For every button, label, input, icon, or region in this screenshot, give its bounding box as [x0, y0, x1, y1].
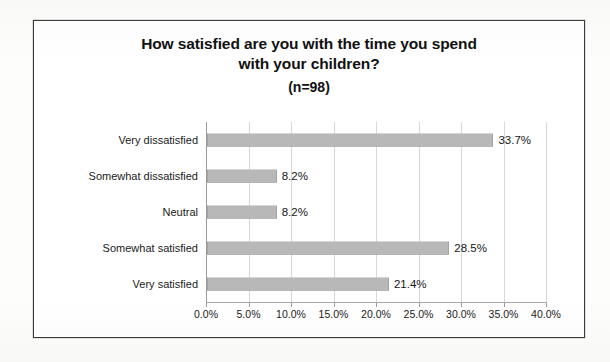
scanned-page: How satisfied are you with the time you … — [0, 0, 610, 362]
x-axis-tick-labels: 0.0%5.0%10.0%15.0%20.0%25.0%30.0%35.0%40… — [206, 308, 547, 326]
chart-title-line-1: How satisfied are you with the time you … — [34, 34, 584, 54]
plot-area: Very dissatisfied33.7%Somewhat dissatisf… — [206, 122, 546, 302]
x-tick-label: 40.0% — [531, 308, 561, 320]
bar — [207, 278, 389, 291]
x-tick-label: 25.0% — [404, 308, 434, 320]
bar-row: Somewhat satisfied28.5% — [206, 230, 546, 266]
category-label: Very satisfied — [133, 278, 198, 290]
chart-subtitle-sample-size: (n=98) — [34, 77, 584, 97]
category-label: Very dissatisfied — [119, 134, 198, 146]
chart-title-block: How satisfied are you with the time you … — [34, 34, 584, 97]
x-tick-label: 10.0% — [276, 308, 306, 320]
bar — [207, 170, 277, 183]
bar-row: Neutral8.2% — [206, 194, 546, 230]
bar — [207, 206, 277, 219]
x-tickmark — [419, 303, 420, 307]
x-tick-label: 0.0% — [194, 308, 218, 320]
x-tick-label: 30.0% — [446, 308, 476, 320]
x-tickmark — [504, 303, 505, 307]
bar-value-label: 28.5% — [454, 242, 487, 254]
category-label: Somewhat satisfied — [103, 242, 198, 254]
category-label: Somewhat dissatisfied — [89, 170, 198, 182]
x-tickmark — [461, 303, 462, 307]
x-tickmark — [249, 303, 250, 307]
x-tick-label: 20.0% — [361, 308, 391, 320]
bar — [207, 242, 449, 255]
x-tickmark — [291, 303, 292, 307]
chart-title-line-2: with your children? — [34, 54, 584, 74]
bar-value-label: 8.2% — [282, 206, 308, 218]
x-tick-label: 5.0% — [237, 308, 261, 320]
category-label: Neutral — [163, 206, 198, 218]
bar-row: Very dissatisfied33.7% — [206, 122, 546, 158]
bar-value-label: 8.2% — [282, 170, 308, 182]
chart-frame: How satisfied are you with the time you … — [33, 20, 585, 338]
bar-value-label: 33.7% — [498, 134, 531, 146]
x-tickmark — [376, 303, 377, 307]
x-tick-label: 15.0% — [319, 308, 349, 320]
x-tickmark — [546, 303, 547, 307]
bar — [207, 134, 493, 147]
bar-row: Very satisfied21.4% — [206, 266, 546, 302]
bar-row: Somewhat dissatisfied8.2% — [206, 158, 546, 194]
gridline-400 — [546, 122, 547, 302]
x-tickmark — [206, 303, 207, 307]
x-tickmark — [334, 303, 335, 307]
bar-value-label: 21.4% — [394, 278, 427, 290]
x-tick-label: 35.0% — [489, 308, 519, 320]
